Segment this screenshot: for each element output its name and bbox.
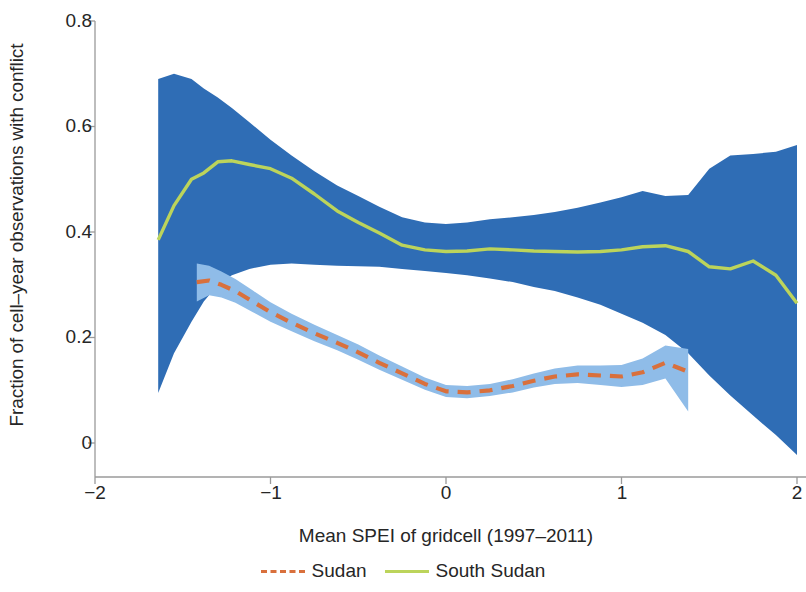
x-axis-tick-labels: −2 −1 0 1 2 [0, 482, 806, 512]
x-axis-label: Mean SPEI of gridcell (1997–2011) [95, 525, 797, 547]
y-tick-4: 0 [32, 432, 92, 454]
x-tick-4: 2 [767, 482, 806, 504]
legend-label-sudan: Sudan [312, 560, 367, 582]
confidence-band-south-sudan [158, 74, 797, 455]
x-tick-0: −2 [65, 482, 125, 504]
y-tick-1: 0.6 [32, 115, 92, 137]
legend-item-south-sudan[interactable]: South Sudan [385, 560, 546, 582]
legend-item-sudan[interactable]: Sudan [261, 560, 367, 582]
legend-swatch-south-sudan [385, 570, 429, 573]
confidence-bands [158, 74, 797, 455]
legend-swatch-sudan [261, 570, 305, 573]
y-tick-3: 0.2 [32, 326, 92, 348]
legend-label-south-sudan: South Sudan [436, 560, 546, 582]
y-tick-2: 0.4 [32, 221, 92, 243]
x-tick-3: 1 [592, 482, 652, 504]
chart-legend: Sudan South Sudan [0, 560, 806, 582]
y-tick-0: 0.8 [32, 10, 92, 32]
chart-figure: Fraction of cell–year observations with … [0, 0, 806, 592]
x-tick-1: −1 [241, 482, 301, 504]
x-tick-2: 0 [416, 482, 476, 504]
